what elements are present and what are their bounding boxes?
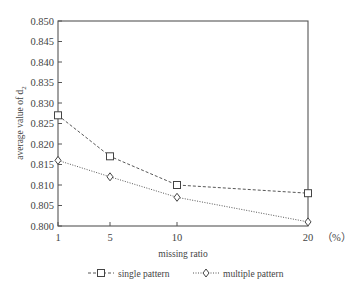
diamond-marker	[107, 173, 113, 181]
x-tick-label: 20	[303, 232, 314, 243]
y-tick-label: 0.850	[30, 16, 54, 27]
y-tick-label: 0.810	[30, 180, 54, 191]
y-tick-label: 0.815	[30, 159, 54, 170]
y-tick-label: 0.805	[30, 200, 54, 211]
diamond-marker	[55, 156, 61, 164]
series-multiple-pattern	[55, 156, 311, 226]
line-chart: 0.8500.8450.8400.8350.8300.8250.8200.815…	[0, 0, 358, 289]
y-tick-label: 0.820	[30, 139, 54, 150]
legend-label: single pattern	[118, 269, 170, 279]
x-tick-label: 1	[55, 232, 60, 243]
plot-border	[58, 21, 308, 226]
y-tick-label: 0.830	[30, 98, 54, 109]
series-single-pattern	[55, 112, 312, 197]
square-marker	[98, 270, 105, 277]
y-tick-label: 0.835	[30, 77, 54, 88]
x-tick-label: 10	[172, 232, 183, 243]
legend: single patternmultiple pattern	[88, 269, 284, 279]
y-tick-label: 0.800	[30, 221, 54, 232]
y-tick-label: 0.845	[30, 36, 54, 47]
diamond-marker	[174, 193, 180, 201]
x-axis-label: missing ratio	[158, 249, 208, 259]
x-axis: 151020（%）	[55, 222, 350, 243]
series-line	[58, 115, 308, 193]
square-marker	[174, 182, 181, 189]
diamond-marker	[203, 269, 209, 277]
square-marker	[55, 112, 62, 119]
square-marker	[107, 153, 114, 160]
legend-item: multiple pattern	[193, 269, 284, 279]
diamond-marker	[305, 218, 311, 226]
x-tick-label: 5	[107, 232, 112, 243]
y-tick-label: 0.825	[30, 118, 54, 129]
y-axis-label: average value of d2	[15, 86, 28, 160]
legend-item: single pattern	[88, 269, 170, 279]
y-tick-label: 0.840	[30, 57, 54, 68]
series-layer	[55, 112, 312, 226]
square-marker	[305, 190, 312, 197]
plot-frame	[58, 21, 308, 226]
legend-label: multiple pattern	[223, 269, 284, 279]
y-axis: 0.8500.8450.8400.8350.8300.8250.8200.815…	[30, 16, 62, 232]
x-unit-label: （%）	[322, 232, 351, 243]
